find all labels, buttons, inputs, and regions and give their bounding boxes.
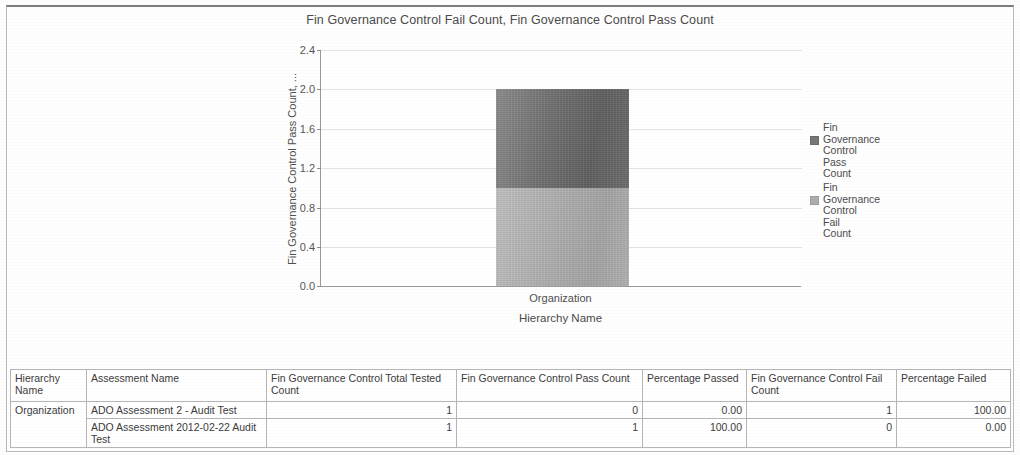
plot-area: 2.4 2.0 1.6 1.2 0.8 0.4	[320, 50, 801, 287]
y-axis-title: Fin Governance Control Pass Count, ...	[284, 50, 300, 287]
ytick-label-1-6: 1.6	[300, 123, 315, 135]
ytick-label-0-4: 0.4	[300, 241, 315, 253]
y-axis-title-text: Fin Governance Control Pass Count, ...	[286, 73, 298, 265]
table-header: Hierarchy Name Assessment Name Fin Gover…	[11, 370, 1011, 402]
legend-swatch-icon	[810, 196, 819, 205]
legend-swatch-icon	[810, 136, 819, 145]
column-header-assessment-name[interactable]: Assessment Name	[87, 370, 267, 402]
cell-percentage-failed: 0.00	[897, 419, 1011, 448]
x-axis-category-label: Organization	[320, 292, 801, 304]
cell-total-tested-count: 1	[267, 402, 457, 419]
column-header-percentage-failed[interactable]: Percentage Failed	[897, 370, 1011, 402]
chart-region: Fin Governance Control Fail Count, Fin G…	[6, 7, 1014, 355]
cell-total-tested-count: 1	[267, 419, 457, 448]
gridline-0-0: 0.0	[321, 286, 802, 287]
column-header-pass-count[interactable]: Fin Governance Control Pass Count	[457, 370, 643, 402]
column-header-total-tested-count[interactable]: Fin Governance Control Total Tested Coun…	[267, 370, 457, 402]
ytick-mark-0-4	[317, 247, 321, 248]
legend-label-fail-count: Fin Governance Control Fail Count	[823, 182, 893, 240]
ytick-mark-2-4	[317, 50, 321, 51]
ytick-mark-1-6	[317, 129, 321, 130]
cell-pass-count: 0	[457, 402, 643, 419]
table-header-row: Hierarchy Name Assessment Name Fin Gover…	[11, 370, 1011, 402]
ytick-mark-0-8	[317, 208, 321, 209]
ytick-mark-0-0	[317, 286, 321, 287]
bar-segment-fail-count[interactable]	[496, 188, 629, 286]
chart-title: Fin Governance Control Fail Count, Fin G…	[6, 13, 1014, 27]
column-header-hierarchy-name[interactable]: Hierarchy Name	[11, 370, 87, 402]
table-row[interactable]: ADO Assessment 2012-02-22 Audit Test 1 1…	[11, 419, 1011, 448]
ytick-mark-2-0	[317, 89, 321, 90]
report-table: Hierarchy Name Assessment Name Fin Gover…	[10, 369, 1011, 448]
ytick-label-1-2: 1.2	[300, 162, 315, 174]
bar-texture	[496, 89, 629, 188]
cell-pass-count: 1	[457, 419, 643, 448]
bar-segment-pass-count[interactable]	[496, 89, 629, 188]
cell-fail-count: 0	[747, 419, 897, 448]
ytick-label-0-0: 0.0	[300, 280, 315, 292]
legend-item-fail-count[interactable]: Fin Governance Control Fail Count	[810, 182, 930, 240]
cell-percentage-passed: 100.00	[643, 419, 747, 448]
cell-percentage-failed: 100.00	[897, 402, 1011, 419]
ytick-label-2-0: 2.0	[300, 83, 315, 95]
x-axis-title: Hierarchy Name	[320, 312, 801, 324]
chart-legend: Fin Governance Control Pass Count Fin Go…	[810, 122, 930, 242]
cell-assessment-name: ADO Assessment 2012-02-22 Audit Test	[87, 419, 267, 448]
cell-fail-count: 1	[747, 402, 897, 419]
column-header-fail-count[interactable]: Fin Governance Control Fail Count	[747, 370, 897, 402]
column-header-percentage-passed[interactable]: Percentage Passed	[643, 370, 747, 402]
legend-label-pass-count: Fin Governance Control Pass Count	[823, 122, 893, 180]
gridline-2-4: 2.4	[321, 50, 802, 51]
bar-texture	[496, 188, 629, 286]
report-page: Fin Governance Control Fail Count, Fin G…	[0, 0, 1020, 455]
ytick-label-2-4: 2.4	[300, 44, 315, 56]
report-table-wrapper: Hierarchy Name Assessment Name Fin Gover…	[10, 369, 1010, 448]
table-body: Organization ADO Assessment 2 - Audit Te…	[11, 402, 1011, 448]
stacked-bar-organization[interactable]	[496, 89, 629, 286]
table-row[interactable]: Organization ADO Assessment 2 - Audit Te…	[11, 402, 1011, 419]
cell-hierarchy-name: Organization	[11, 402, 87, 448]
cell-percentage-passed: 0.00	[643, 402, 747, 419]
ytick-label-0-8: 0.8	[300, 202, 315, 214]
legend-item-pass-count[interactable]: Fin Governance Control Pass Count	[810, 122, 930, 180]
cell-assessment-name: ADO Assessment 2 - Audit Test	[87, 402, 267, 419]
ytick-mark-1-2	[317, 168, 321, 169]
